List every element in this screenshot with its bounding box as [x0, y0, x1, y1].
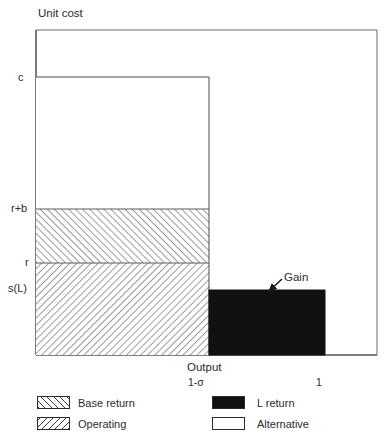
y-tick-label-c: c	[18, 72, 24, 83]
bar-segment-l-return	[209, 290, 325, 355]
legend-swatch-l-return	[212, 396, 245, 409]
y-axis-title: Unit cost	[38, 8, 83, 20]
legend-swatch-base-return	[37, 396, 70, 409]
bar-segment-alternative	[36, 77, 209, 209]
legend-swatch-alternative	[212, 417, 245, 430]
y-tick-label-r: r	[25, 257, 29, 268]
legend-label-operating: Operating	[78, 418, 126, 430]
legend-swatch-operating	[37, 417, 70, 430]
gain-annotation-label: Gain	[284, 272, 308, 284]
y-tick-label-s-of-L: s(L)	[8, 283, 27, 294]
legend-label-l-return: L return	[257, 397, 295, 409]
x-tick-label-one-minus-sigma: 1-σ	[188, 377, 204, 388]
chart-figure: Unit cost c r+b r s(L) Output 1-σ 1 Gain…	[0, 0, 390, 446]
bar-segment-operating	[36, 263, 209, 355]
x-axis-title: Output	[187, 362, 222, 374]
bar-segment-base-return	[36, 209, 209, 263]
x-tick-label-one: 1	[316, 377, 322, 388]
y-tick-label-r-plus-b: r+b	[11, 203, 27, 214]
legend-label-alternative: Alternative	[257, 418, 309, 430]
legend-label-base-return: Base return	[78, 397, 135, 409]
